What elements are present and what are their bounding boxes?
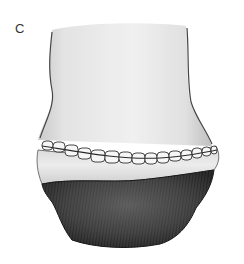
lower-mass	[42, 170, 214, 247]
limb-shaft	[38, 18, 212, 146]
suture-illustration	[0, 0, 244, 264]
